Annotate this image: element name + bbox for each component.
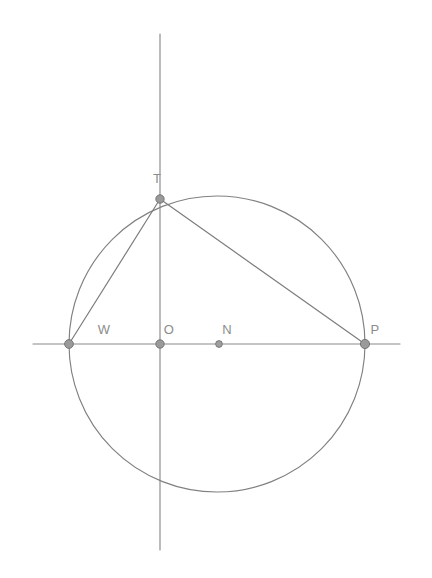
point-label-n: N [222,322,232,337]
point-label-p: P [371,322,380,337]
point-label-t: T [153,171,161,186]
point-label-o: O [164,322,174,337]
segment-tw [69,199,160,344]
point-marker-t [156,195,164,203]
point-marker-p [360,339,369,348]
geometry-diagram: T W O N P [0,0,432,578]
point-label-w: W [98,322,111,337]
point-marker-w [65,340,74,349]
point-marker-n [216,341,223,348]
point-marker-o [156,340,164,348]
figure-canvas: T W O N P [0,0,432,578]
segment-tp [160,199,365,344]
